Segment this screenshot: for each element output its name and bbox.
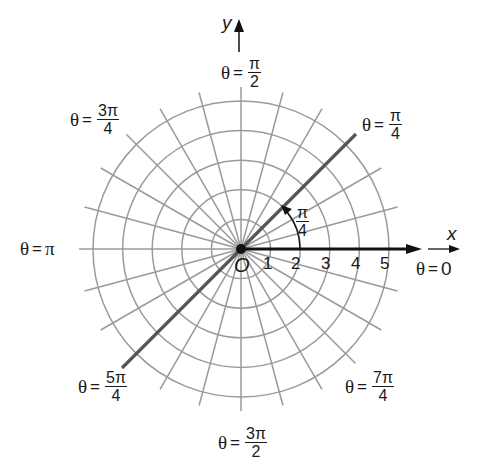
label-theta-7pi-over-4: θ = 7π4 <box>345 370 394 403</box>
angle-arc-label: π4 <box>294 205 309 238</box>
radial-tick-2: 2 <box>291 254 300 274</box>
x-extension-arrowhead <box>449 245 460 253</box>
theta-symbol: θ <box>218 432 227 454</box>
radial-tick-1: 1 <box>263 254 272 274</box>
arc-den: 4 <box>298 222 307 238</box>
theta-symbol: θ <box>78 376 87 398</box>
grid-ray <box>241 207 397 249</box>
angle-denominator: 2 <box>250 73 259 89</box>
origin-label: O <box>234 254 250 277</box>
label-theta-5pi-over-4: θ = 5π4 <box>78 370 127 403</box>
x-axis-label: x <box>447 223 457 245</box>
angle-numerator: 7π <box>372 370 394 387</box>
grid-ray <box>85 249 241 291</box>
equals-sign: = <box>90 377 100 397</box>
angle-denominator: 4 <box>112 387 121 403</box>
equals-sign: = <box>230 433 240 453</box>
theta-symbol: θ <box>416 258 425 280</box>
grid-ray <box>101 168 241 249</box>
angle-numerator: π <box>389 108 402 125</box>
equals-sign: = <box>357 377 367 397</box>
angle-arc-arrowhead <box>281 205 292 215</box>
angle-numerator: 5π <box>105 370 127 387</box>
angle-denominator: 4 <box>379 387 388 403</box>
theta-symbol: θ <box>345 376 354 398</box>
radial-tick-5: 5 <box>380 254 389 274</box>
equals-sign: = <box>233 63 243 83</box>
label-theta-pi: θ = π <box>20 238 55 260</box>
equals-sign: = <box>374 115 384 135</box>
label-theta-3pi-over-4: θ = 3π4 <box>70 103 119 136</box>
angle-numerator: π <box>248 56 261 73</box>
arc-num: π <box>296 205 309 222</box>
angle-numerator: 3π <box>97 103 119 120</box>
grid-ray <box>241 93 283 249</box>
angle-denominator: 4 <box>391 125 400 141</box>
radial-tick-3: 3 <box>321 254 330 274</box>
x-axis-arrowhead <box>406 244 422 254</box>
radial-tick-4: 4 <box>351 254 360 274</box>
angle-numerator: 3π <box>245 426 267 443</box>
y-axis-arrowhead <box>234 19 244 32</box>
theta-symbol: θ <box>20 238 29 260</box>
label-theta-pi-over-4: θ = π4 <box>362 108 402 141</box>
angle-value: 0 <box>441 258 452 280</box>
label-theta-0: θ = 0 <box>416 258 452 280</box>
angle-denominator: 4 <box>104 120 113 136</box>
theta-symbol: θ <box>221 62 230 84</box>
theta-symbol: θ <box>362 114 371 136</box>
grid-ray <box>85 207 241 249</box>
equals-sign: = <box>32 239 42 259</box>
label-theta-pi-over-2: θ = π2 <box>221 56 261 89</box>
origin-dot <box>236 244 246 254</box>
angle-denominator: 2 <box>252 443 261 459</box>
equals-sign: = <box>428 259 438 279</box>
theta-symbol: θ <box>70 109 79 131</box>
angle-value: π <box>45 238 55 260</box>
grid-ray <box>199 93 241 249</box>
grid-ray <box>160 109 241 249</box>
polar-diagram: y x O 1 2 3 4 5 π4 θ = 0 θ = π4 θ = π2 θ… <box>0 0 478 472</box>
label-theta-3pi-over-2: θ = 3π2 <box>218 426 267 459</box>
equals-sign: = <box>82 110 92 130</box>
y-axis-label: y <box>222 12 232 34</box>
grid-ray <box>241 249 322 389</box>
